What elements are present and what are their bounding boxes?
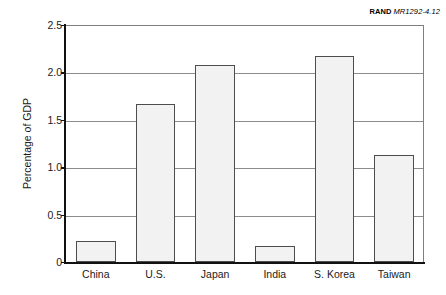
x-tick-label-s-korea: S. Korea [314,268,355,280]
x-tick-label-taiwan: Taiwan [378,268,411,280]
bar-s-korea [315,56,354,262]
y-axis-title: Percentage of GDP [18,25,36,262]
bar-chart-figure: RANDMR1292-4.12 Percentage of GDP 00.51.… [0,0,446,295]
plot-area [66,25,424,262]
y-tick-label: 1.0 [20,161,62,173]
rand-logo-text: RAND [369,7,391,16]
gridline [66,216,423,217]
bar-japan [195,65,234,262]
y-tick-label: 0 [20,256,62,268]
y-tick-mark [61,215,66,216]
y-tick-mark [61,120,66,121]
y-tick-label: 2.5 [20,19,62,31]
x-tick-label-japan: Japan [201,268,230,280]
y-tick-mark [61,167,66,168]
x-tick-label-india: India [263,268,286,280]
y-tick-mark [61,262,66,263]
y-tick-mark [61,25,66,26]
x-tick-label-china: China [82,268,109,280]
gridline [66,121,423,122]
bar-taiwan [374,155,413,262]
gridline [66,168,423,169]
y-tick-mark [61,72,66,73]
y-tick-label: 2.0 [20,66,62,78]
gridline [66,73,423,74]
bar-china [76,241,115,262]
document-code: MR1292-4.12 [393,7,440,16]
bar-india [255,246,294,262]
rand-credit-line: RANDMR1292-4.12 [369,7,440,16]
x-tick-label-u-s: U.S. [145,268,165,280]
y-tick-label: 1.5 [20,114,62,126]
bar-u-s [136,104,175,262]
y-tick-label: 0.5 [20,209,62,221]
